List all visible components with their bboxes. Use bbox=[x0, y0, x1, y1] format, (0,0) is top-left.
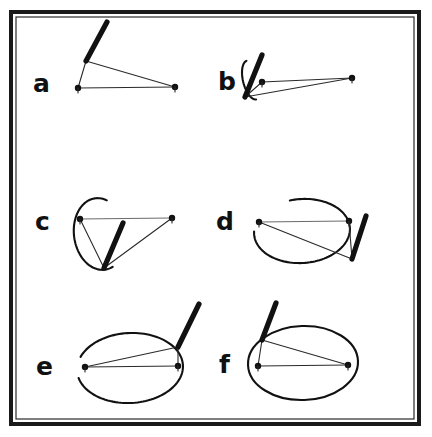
figure-root: abcdef bbox=[0, 0, 432, 437]
figure-canvas: abcdef bbox=[0, 0, 432, 437]
panel-label-b: b bbox=[218, 67, 236, 96]
panel-label-f: f bbox=[219, 350, 231, 379]
panel-label-c: c bbox=[35, 207, 50, 236]
panel-label-a: a bbox=[33, 69, 50, 98]
panel-label-d: d bbox=[216, 207, 234, 236]
panel-label-e: e bbox=[36, 352, 53, 381]
